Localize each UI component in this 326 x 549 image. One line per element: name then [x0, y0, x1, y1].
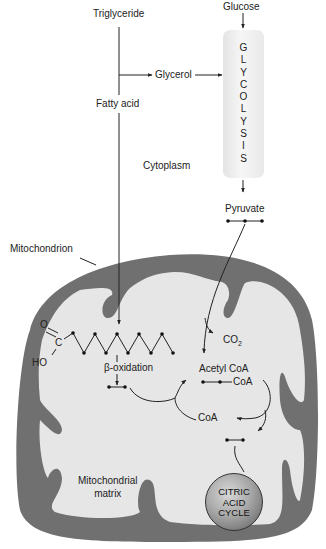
carboxyl-o-label: O — [40, 320, 48, 330]
mitochondrion-label: Mitochondrion — [10, 244, 73, 254]
acetyl-coa-label: Acetyl CoA — [199, 364, 248, 374]
carboxyl-c-label: C — [55, 338, 62, 348]
fatty-acid-label: Fatty acid — [96, 99, 139, 109]
beta-oxidation-label: β-oxidation — [104, 363, 153, 373]
co2-label: CO2 — [223, 335, 242, 347]
pyruvate-molecule — [226, 219, 264, 223]
pyruvate-label: Pyruvate — [225, 204, 264, 214]
glycolysis-label: G L Y C O L Y S I S — [223, 42, 264, 165]
acetyl-coa-group-label: CoA — [233, 377, 252, 387]
triglyceride-label: Triglyceride — [93, 9, 144, 19]
citric-acid-cycle-sphere: CITRIC ACID CYCLE — [205, 473, 263, 531]
mitochondrion-leader-line — [80, 258, 96, 265]
glycerol-label: Glycerol — [155, 70, 192, 80]
citric-acid-cycle-label: CITRIC ACID CYCLE — [206, 487, 262, 519]
glycolysis-box: G L Y C O L Y S I S — [223, 30, 264, 178]
pathway-diagram — [0, 0, 326, 549]
cytoplasm-label: Cytoplasm — [143, 161, 190, 171]
mitochondrial-matrix-label: Mitochondrial matrix — [78, 474, 137, 500]
coa-label: CoA — [198, 413, 217, 423]
glucose-label: Glucose — [223, 2, 260, 12]
carboxyl-ho-label: HO — [32, 358, 47, 368]
